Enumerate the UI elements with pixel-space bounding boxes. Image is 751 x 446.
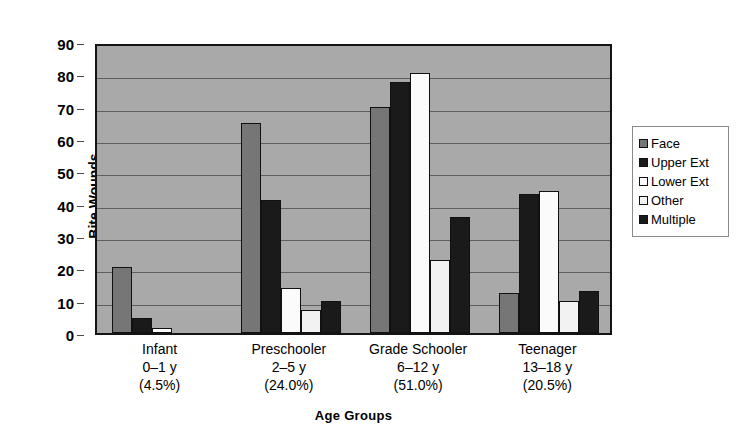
y-tick-mark bbox=[77, 109, 84, 110]
bar bbox=[321, 301, 341, 333]
legend-item: Face bbox=[639, 134, 724, 153]
y-tick-mark bbox=[77, 173, 84, 174]
bar bbox=[301, 310, 321, 333]
y-tick-label: 80 bbox=[57, 69, 74, 84]
bar bbox=[261, 200, 281, 333]
x-axis-category-labels: Infant0–1 y(4.5%)Preschooler2–5 y(24.0%)… bbox=[95, 341, 612, 403]
y-tick-label: 50 bbox=[57, 166, 74, 181]
legend-swatch-icon bbox=[639, 139, 648, 148]
legend-item: Lower Ext bbox=[639, 172, 724, 191]
y-tick-mark bbox=[77, 303, 84, 304]
x-category-label-line: Infant bbox=[95, 341, 224, 359]
y-tick-label: 70 bbox=[57, 101, 74, 116]
x-category-label: Grade Schooler6–12 y(51.0%) bbox=[354, 341, 483, 395]
y-tick-label: 30 bbox=[57, 231, 74, 246]
y-tick-label: 60 bbox=[57, 134, 74, 149]
y-tick-mark bbox=[77, 141, 84, 142]
legend-label: Other bbox=[651, 194, 684, 207]
y-tick-mark bbox=[77, 76, 84, 77]
bar bbox=[430, 260, 450, 333]
x-category-label: Infant0–1 y(4.5%) bbox=[95, 341, 224, 395]
legend-swatch-icon bbox=[639, 158, 648, 167]
bar bbox=[132, 318, 152, 333]
bar bbox=[519, 194, 539, 333]
bar bbox=[450, 217, 470, 333]
y-tick-mark bbox=[77, 238, 84, 239]
bars-layer bbox=[97, 46, 610, 333]
y-tick-mark bbox=[77, 44, 84, 45]
legend-item: Other bbox=[639, 191, 724, 210]
x-category-label-line: (24.0%) bbox=[224, 377, 353, 395]
y-tick-mark bbox=[77, 206, 84, 207]
y-tick-label: 0 bbox=[66, 328, 74, 343]
bar bbox=[539, 191, 559, 333]
x-axis-title: Age Groups bbox=[95, 408, 612, 423]
x-category-label-line: (4.5%) bbox=[95, 377, 224, 395]
bar bbox=[112, 267, 132, 333]
legend-item: Upper Ext bbox=[639, 153, 724, 172]
x-category-label-line: 6–12 y bbox=[354, 359, 483, 377]
bar bbox=[152, 328, 172, 333]
x-category-label-line: 2–5 y bbox=[224, 359, 353, 377]
bar bbox=[579, 291, 599, 333]
legend-swatch-icon bbox=[639, 215, 648, 224]
legend-label: Face bbox=[651, 137, 680, 150]
bar bbox=[390, 82, 410, 333]
y-tick-label: 90 bbox=[57, 37, 74, 52]
legend-swatch-icon bbox=[639, 177, 648, 186]
x-category-label-line: 0–1 y bbox=[95, 359, 224, 377]
x-category-label-line: Grade Schooler bbox=[354, 341, 483, 359]
bite-wounds-bar-chart: Bite Wounds 9080706050403020100 Infant0–… bbox=[0, 0, 751, 446]
plot-area bbox=[95, 44, 612, 335]
y-tick-label: 40 bbox=[57, 198, 74, 213]
x-category-label: Teenager13–18 y(20.5%) bbox=[483, 341, 612, 395]
legend-swatch-icon bbox=[639, 196, 648, 205]
y-tick-label: 20 bbox=[57, 263, 74, 278]
legend-label: Upper Ext bbox=[651, 156, 709, 169]
legend: FaceUpper ExtLower ExtOtherMultiple bbox=[632, 126, 729, 237]
legend-label: Lower Ext bbox=[651, 175, 709, 188]
bar bbox=[499, 293, 519, 333]
y-tick-mark bbox=[77, 270, 84, 271]
x-category-label-line: (20.5%) bbox=[483, 377, 612, 395]
bar bbox=[559, 301, 579, 333]
x-category-label: Preschooler2–5 y(24.0%) bbox=[224, 341, 353, 395]
x-category-label-line: Teenager bbox=[483, 341, 612, 359]
x-category-label-line: (51.0%) bbox=[354, 377, 483, 395]
x-category-label-line: 13–18 y bbox=[483, 359, 612, 377]
bar bbox=[241, 123, 261, 333]
y-axis-ticks: 9080706050403020100 bbox=[40, 44, 84, 335]
bar bbox=[410, 73, 430, 333]
legend-item: Multiple bbox=[639, 210, 724, 229]
bar bbox=[370, 107, 390, 333]
x-category-label-line: Preschooler bbox=[224, 341, 353, 359]
y-tick-mark bbox=[77, 335, 84, 336]
legend-label: Multiple bbox=[651, 213, 696, 226]
y-tick-label: 10 bbox=[57, 295, 74, 310]
bar bbox=[281, 288, 301, 333]
